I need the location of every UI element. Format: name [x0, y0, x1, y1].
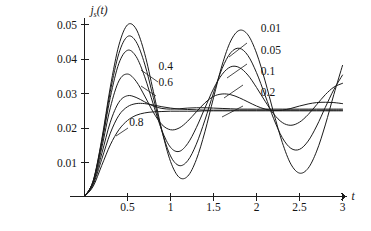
curve-0.6	[85, 103, 343, 196]
curve-label-0.8: 0.8	[129, 116, 144, 128]
y-axis-title: js(t)	[88, 4, 107, 19]
curve-0.1	[85, 50, 343, 196]
x-tick-label-4: 2.5	[292, 201, 307, 213]
y-tick-label-0: 0.05	[57, 19, 77, 31]
y-axis-title-arg: (t)	[97, 4, 108, 17]
x-tick-label-2: 1.5	[206, 201, 221, 213]
curve-label-0.05: 0.05	[261, 44, 281, 56]
y-tick-label-1: 0.04	[57, 53, 77, 65]
curve-label-0.6: 0.6	[159, 76, 174, 88]
x-axis-title: t	[351, 190, 355, 202]
curve-label-0.2: 0.2	[261, 86, 276, 98]
y-tick-label-2: 0.03	[57, 88, 77, 100]
curve-label-0.1: 0.1	[261, 65, 276, 77]
leader-0.2	[222, 106, 243, 117]
figure-container: 0.05 0.04 0.03 0.02 0.01 0.5 1 1.5 2 2.5…	[0, 0, 371, 231]
x-tick-label-3: 2	[254, 201, 260, 213]
curve-group	[85, 24, 343, 197]
y-tick-label-3: 0.02	[57, 122, 77, 134]
leader-0.01	[229, 43, 247, 57]
curve-0.8	[85, 111, 343, 197]
y-tick-label-4: 0.01	[57, 157, 77, 169]
x-tick-label-1: 1	[168, 201, 174, 213]
x-tick-label-0: 0.5	[120, 201, 135, 213]
chart-canvas: 0.05 0.04 0.03 0.02 0.01 0.5 1 1.5 2 2.5…	[0, 0, 371, 231]
curve-label-0.01: 0.01	[261, 22, 281, 34]
curve-label-0.4: 0.4	[159, 60, 174, 72]
x-axis-tick-labels: 0.5 1 1.5 2 2.5 3	[120, 201, 345, 213]
y-axis-tick-labels: 0.05 0.04 0.03 0.02 0.01	[57, 19, 77, 169]
leader-0.1	[224, 85, 243, 98]
x-tick-label-5: 3	[340, 201, 346, 213]
